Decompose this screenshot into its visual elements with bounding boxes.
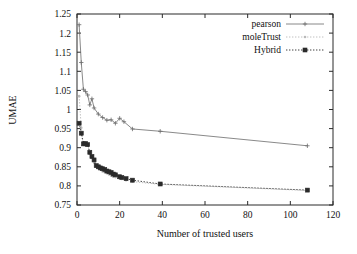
x-tick-label: 80 — [243, 210, 253, 220]
legend-label-hybrid: Hybrid — [254, 45, 281, 55]
chart-figure: 0.750.80.850.90.9511.051.11.151.21.25 02… — [0, 0, 357, 254]
y-tick-label: 1.2 — [59, 29, 71, 39]
series-moletrust — [78, 95, 309, 192]
x-axis-ticks: 020406080100120 — [75, 14, 341, 220]
y-tick-label: 1 — [66, 105, 71, 115]
x-tick-label: 40 — [158, 210, 168, 220]
legend-label-pearson: pearson — [251, 19, 281, 29]
y-tick-label: 0.75 — [54, 200, 71, 210]
umae-line-chart: 0.750.80.850.90.9511.051.11.151.21.25 02… — [0, 0, 357, 254]
series-hybrid — [77, 121, 309, 192]
x-tick-label: 60 — [200, 210, 210, 220]
y-tick-label: 1.05 — [54, 86, 71, 96]
y-tick-label: 1.1 — [59, 67, 71, 77]
legend-label-moletrust: moleTrust — [242, 32, 281, 42]
chart-legend: pearsonmoleTrustHybrid — [242, 19, 324, 55]
y-axis-ticks: 0.750.80.850.90.9511.051.11.151.21.25 — [54, 9, 333, 210]
x-tick-label: 0 — [75, 210, 80, 220]
y-tick-label: 1.15 — [54, 48, 71, 58]
y-tick-label: 0.95 — [54, 124, 71, 134]
x-tick-label: 120 — [326, 210, 341, 220]
y-tick-label: 1.25 — [54, 9, 71, 19]
y-tick-label: 0.8 — [59, 181, 71, 191]
x-axis-title: Number of trusted users — [157, 228, 253, 239]
y-tick-label: 0.85 — [54, 162, 71, 172]
y-axis-title: UMAE — [7, 95, 18, 124]
x-tick-label: 100 — [283, 210, 298, 220]
y-tick-label: 0.9 — [59, 143, 71, 153]
x-tick-label: 20 — [115, 210, 125, 220]
